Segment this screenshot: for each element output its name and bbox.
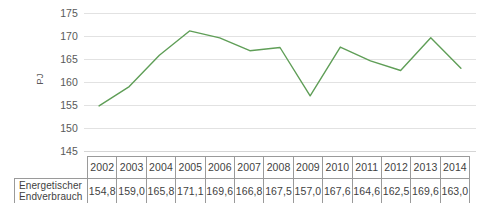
table-value-cell: 159,0: [117, 178, 146, 203]
table-year-cell: 2009: [293, 157, 322, 179]
table-year-cell: 2013: [411, 157, 440, 179]
row-header-line-2: Endverbrauch: [19, 191, 87, 202]
table-value-cell: 164,6: [352, 178, 381, 203]
table-year-cell: 2005: [176, 157, 205, 179]
table-value-cell: 157,0: [293, 178, 322, 203]
y-tick-label-155: 155: [52, 100, 78, 110]
table-row-years: 2002200320042005200620072008200920102011…: [15, 157, 470, 179]
table-year-cell: 2011: [352, 157, 381, 179]
table-year-cell: 2008: [264, 157, 293, 179]
table-value-cell: 166,8: [234, 178, 263, 203]
table-year-cell: 2007: [234, 157, 263, 179]
y-tick-label-170: 170: [52, 31, 78, 41]
table-value-cell: 163,0: [440, 178, 469, 203]
table-value-cell: 171,1: [176, 178, 205, 203]
data-series-line: [84, 0, 476, 157]
y-tick-label-150: 150: [52, 123, 78, 133]
y-tick-label-165: 165: [52, 54, 78, 64]
table-year-cell: 2002: [88, 157, 117, 179]
table-row-header: Energetischer Endverbrauch: [15, 178, 88, 203]
table-value-cell: 169,6: [411, 178, 440, 203]
table-value-cell: 167,6: [323, 178, 352, 203]
table-year-cell: 2012: [381, 157, 410, 179]
table-value-cell: 167,5: [264, 178, 293, 203]
series-polyline: [99, 31, 461, 106]
line-chart-with-data-table: 175170165160155150145 PJ 200220032004200…: [0, 0, 483, 203]
y-tick-label-145: 145: [52, 146, 78, 156]
chart-plot-region: 175170165160155150145 PJ: [0, 0, 483, 157]
table-value-cell: 169,6: [205, 178, 234, 203]
y-tick-label-175: 175: [52, 8, 78, 18]
y-axis-tick-labels: 175170165160155150145: [52, 0, 78, 157]
table-year-cell: 2004: [146, 157, 175, 179]
table-year-cell: 2006: [205, 157, 234, 179]
table-value-cell: 154,8: [88, 178, 117, 203]
table-row-values: Energetischer Endverbrauch 154,8159,0165…: [15, 178, 470, 203]
table-year-cell: 2010: [323, 157, 352, 179]
row-header-line-1: Energetischer: [19, 180, 87, 191]
y-tick-label-160: 160: [52, 77, 78, 87]
table-value-cell: 165,8: [146, 178, 175, 203]
table-value-cell: 162,5: [381, 178, 410, 203]
table-corner-cell: [15, 157, 88, 179]
table-year-cell: 2014: [440, 157, 469, 179]
y-axis-title: PJ: [32, 60, 48, 98]
table-year-cell: 2003: [117, 157, 146, 179]
data-table: 2002200320042005200620072008200920102011…: [14, 156, 470, 203]
